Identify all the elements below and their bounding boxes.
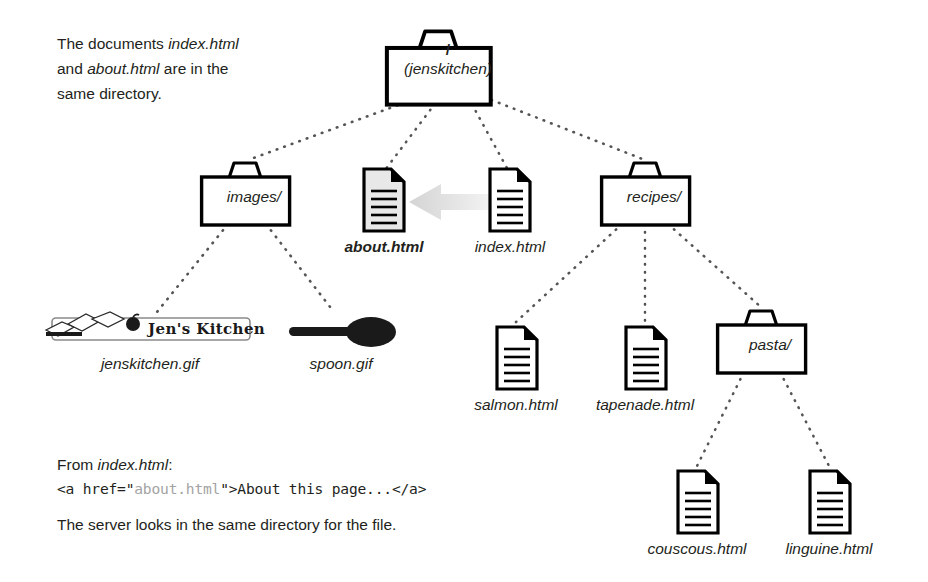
intro-note-line3: same directory. [57,81,239,106]
index-html-doc-label: index.html [475,238,546,256]
intro-line1-emphasis: index.html [168,35,239,52]
pasta-folder-label: pasta/ [749,335,791,354]
reference-arrow [409,184,489,220]
about-html-doc-icon [364,169,404,231]
root-folder-label: / (jenskitchen) [404,40,492,78]
from-note-emphasis: index.html [97,456,168,473]
from-note-suffix: : [168,456,172,473]
intro-line2-suffix: are in the [160,60,229,77]
about-html-doc-label: about.html [344,238,423,256]
intro-line2-prefix: and [57,60,87,77]
recipes-folder-label: recipes/ [627,187,681,206]
tapenade-html-doc-icon [626,327,666,389]
couscous-html-doc-icon [678,471,718,533]
spoon-gif-label: spoon.gif [310,355,373,373]
root-folder-name: (jenskitchen) [404,60,492,77]
linguine-html-doc-icon [810,471,850,533]
jenskitchen-gif-image: Jen's Kitchen [46,312,265,340]
salmon-html-doc-icon [497,327,537,389]
linguine-html-doc-label: linguine.html [785,540,872,558]
salmon-html-doc-label: salmon.html [474,396,558,414]
code-after-string: ">About this page...</a> [220,480,426,497]
spoon-gif-image [289,317,396,347]
from-note: From index.html: [57,452,172,477]
code-href-value: about.html [134,480,220,497]
couscous-html-doc-label: couscous.html [647,540,746,558]
intro-line2-emphasis: about.html [87,60,159,77]
connectors-images [157,224,334,312]
code-snippet: <a href="about.html">About this page...<… [57,480,426,497]
connectors-recipes [516,224,762,322]
intro-note: The documents index.html and about.html … [57,31,239,106]
from-note-prefix: From [57,456,97,473]
svg-text:Jen's Kitchen: Jen's Kitchen [146,320,265,338]
intro-line1-prefix: The documents [57,35,168,52]
root-folder-slash: / [404,40,492,59]
footer-note: The server looks in the same directory f… [57,512,396,537]
index-html-doc-icon [490,169,530,231]
intro-note-line1: The documents index.html [57,31,239,56]
images-folder-label: images/ [227,187,281,206]
connectors-pasta [697,372,829,466]
intro-note-line2: and about.html are in the [57,56,239,81]
code-before-string: <a href=" [57,480,134,497]
jenskitchen-gif-label: jenskitchen.gif [101,355,199,373]
connectors-root [248,97,645,170]
directory-tree-diagram: Jen's Kitchen The documents index.html [0,0,928,582]
tapenade-html-doc-label: tapenade.html [596,396,694,414]
